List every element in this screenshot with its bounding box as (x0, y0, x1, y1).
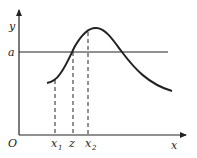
z-label: z (68, 137, 75, 150)
x-axis-label: x (171, 139, 178, 152)
diagram-canvas: y a O x x 1 z x 2 (0, 0, 197, 158)
x2-label: x (85, 137, 92, 150)
x1-subscript: 1 (58, 144, 62, 152)
origin-label: O (8, 137, 17, 150)
curve (47, 28, 172, 91)
x2-subscript: 2 (91, 144, 97, 152)
x1-label: x (51, 137, 58, 150)
y-axis-label: y (8, 20, 16, 33)
level-a-label: a (8, 46, 15, 59)
